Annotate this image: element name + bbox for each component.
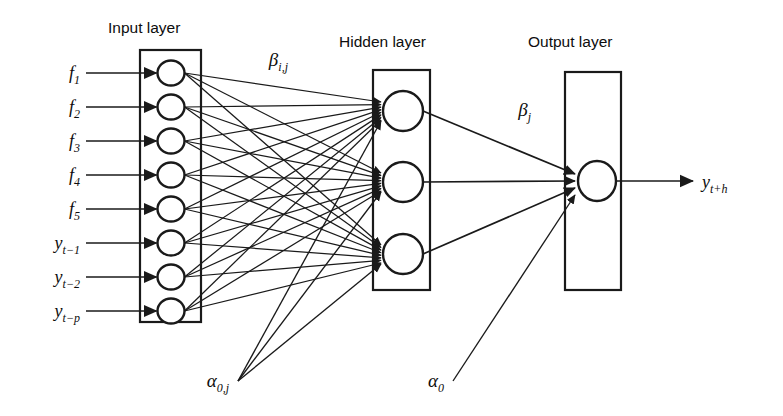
edge-hidden-2-output	[423, 181, 575, 182]
hidden-to-output-edges	[423, 111, 575, 254]
network-svg: Input layer Hidden layer Output layer f1…	[0, 0, 783, 416]
edge-input-8-hidden-3	[185, 263, 382, 311]
input-label-6: yt−1	[53, 233, 80, 257]
layer-titles: Input layer Hidden layer Output layer	[108, 19, 612, 50]
input-label-7: yt−2	[53, 267, 80, 291]
edge-input-6-hidden-1	[185, 115, 382, 243]
edge-input-1-hidden-3	[185, 73, 382, 245]
neural-network-diagram: Input layer Hidden layer Output layer f1…	[0, 0, 783, 416]
weight-label-input-hidden: βi,j	[268, 49, 289, 74]
input-node-8	[158, 299, 185, 324]
edge-input-3-hidden-1	[185, 107, 382, 141]
edge-input-2-hidden-1	[185, 105, 382, 107]
input-label-5: f5	[69, 199, 80, 223]
weight-label-hidden-output: βj	[517, 99, 531, 124]
bias-label-hidden: α0,j	[207, 370, 230, 395]
edge-input-2-hidden-3	[185, 107, 382, 248]
edge-input-7-hidden-3	[185, 260, 382, 277]
input-label-3: f3	[69, 131, 80, 155]
input-node-2	[158, 95, 185, 120]
input-node-4	[158, 163, 185, 188]
output-nodes	[578, 161, 616, 201]
input-to-hidden-edges	[185, 73, 382, 311]
input-feed-arrows	[86, 73, 157, 311]
input-node-7	[158, 265, 185, 290]
hidden-node-3	[383, 234, 423, 274]
input-node-5	[158, 197, 185, 222]
input-labels: f1f2f3f4f5yt−1yt−2yt−p	[53, 63, 80, 325]
input-node-6	[158, 231, 185, 256]
input-label-2: f2	[69, 97, 80, 121]
hidden-layer-title: Hidden layer	[339, 33, 426, 50]
input-nodes	[158, 61, 185, 324]
hidden-node-1	[383, 91, 423, 131]
output-bias-edge	[453, 195, 575, 381]
input-node-3	[158, 129, 185, 154]
hidden-node-2	[383, 162, 423, 202]
edge-bias-output	[453, 195, 575, 381]
edge-hidden-3-output	[423, 188, 575, 254]
input-node-1	[158, 61, 185, 86]
input-label-8: yt−p	[53, 301, 80, 325]
input-label-4: f4	[69, 165, 80, 189]
output-layer-title: Output layer	[528, 33, 612, 50]
output-node-1	[578, 161, 616, 201]
input-layer-title: Input layer	[108, 19, 180, 36]
output-label: yt+h	[700, 172, 727, 196]
edge-bias-hidden-3	[238, 264, 381, 381]
hidden-nodes	[383, 91, 423, 274]
input-label-1: f1	[69, 63, 80, 87]
bias-label-output: α0	[428, 370, 444, 395]
edge-hidden-1-output	[423, 111, 575, 174]
edge-input-6-hidden-3	[185, 243, 382, 258]
